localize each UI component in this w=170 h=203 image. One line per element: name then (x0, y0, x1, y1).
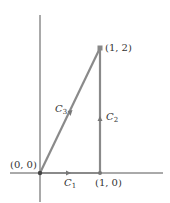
label-c3: C3 (55, 104, 67, 116)
arrow-c2-icon (98, 116, 103, 121)
label-point-1-0: (1, 0) (95, 178, 122, 188)
label-c2: C2 (106, 112, 118, 124)
label-point-origin: (0, 0) (10, 160, 37, 170)
arrow-c1-icon (66, 171, 71, 176)
label-c1: C1 (64, 178, 76, 190)
diagram: (1, 2) (0, 0) (1, 0) C1 C2 C3 (0, 0, 170, 203)
point-1-2 (98, 46, 103, 51)
point-origin (38, 171, 42, 175)
label-point-1-2: (1, 2) (105, 43, 132, 53)
point-1-0 (98, 171, 102, 175)
diagram-canvas (0, 0, 170, 203)
